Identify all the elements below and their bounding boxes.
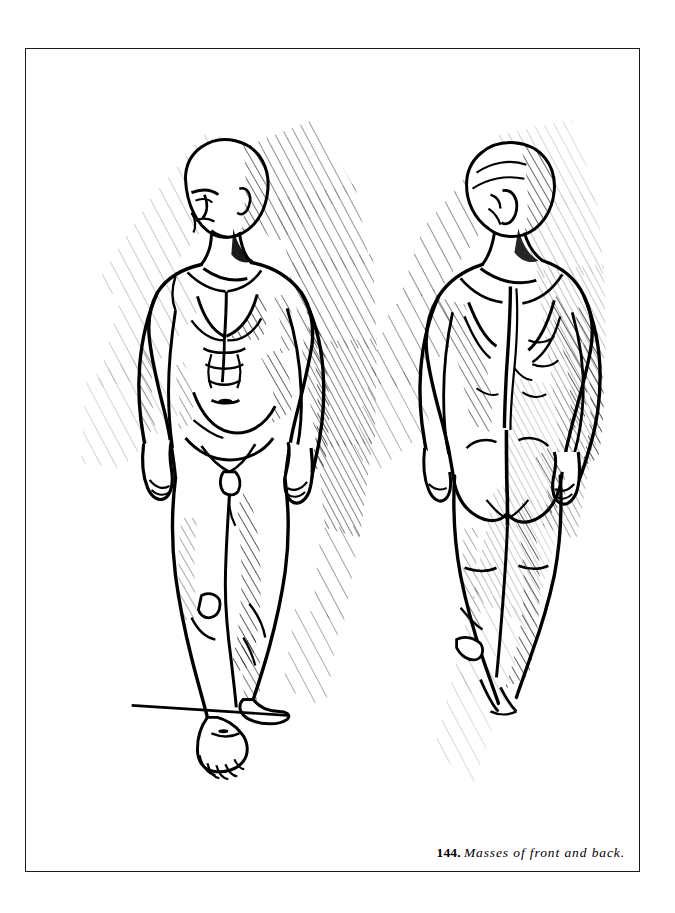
figure-number: 144. (436, 845, 460, 860)
front-groin (220, 472, 240, 495)
front-knee-left (198, 594, 220, 618)
plate-frame: 144.Masses of front and back. (25, 48, 640, 872)
figure-caption: 144.Masses of front and back. (436, 845, 625, 861)
front-hand-left (143, 440, 173, 499)
front-navel (218, 399, 232, 404)
anatomy-illustration (26, 49, 639, 871)
illustration-page: 144.Masses of front and back. (0, 0, 675, 913)
figure-caption-text: Masses of front and back. (464, 845, 625, 860)
back-gluteal-cleft (506, 430, 507, 526)
front-hand-right (285, 442, 313, 503)
illustration-svg (26, 49, 639, 871)
